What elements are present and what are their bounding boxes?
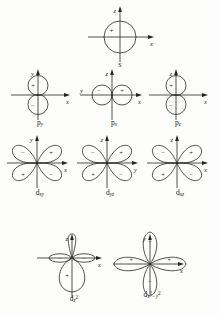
orbital-d-xy: − + + − y x dxy	[4, 130, 76, 192]
svg-text:y: y	[29, 136, 33, 143]
orbital-label-p-y: py	[29, 118, 51, 127]
orbital-label-sup: 2	[76, 294, 79, 300]
svg-text:−: −	[148, 278, 152, 285]
svg-text:+: +	[91, 171, 95, 178]
svg-text:+: +	[120, 87, 124, 94]
svg-text:x: x	[203, 98, 207, 105]
svg-text:+: +	[161, 171, 165, 178]
svg-text:+: +	[21, 171, 25, 178]
orbital-d-x2-y2: + + − − y x dx2−y2	[110, 232, 194, 302]
svg-text:−: −	[58, 255, 61, 261]
svg-text:+: +	[167, 256, 171, 263]
svg-text:+: +	[31, 82, 35, 89]
svg-text:−: −	[82, 255, 85, 261]
svg-text:+: +	[49, 149, 53, 156]
svg-text:z: z	[99, 136, 103, 143]
orbital-d-z2: − − + z x dz2	[34, 232, 110, 302]
svg-text:−: −	[21, 149, 25, 156]
svg-text:y: y	[79, 87, 83, 94]
svg-text:z: z	[112, 7, 116, 14]
svg-text:−: −	[31, 102, 35, 109]
orbital-d-xz: − + + − z x dxz	[144, 130, 216, 192]
orbital-s: + z x s	[82, 4, 158, 66]
svg-text:−: −	[148, 238, 152, 245]
svg-text:−: −	[189, 171, 193, 178]
svg-text:+: +	[65, 272, 69, 279]
orbital-p-x: − + z x y px	[76, 66, 148, 124]
orbital-label-d-yz: dyz	[97, 188, 123, 197]
svg-text:+: +	[169, 82, 173, 89]
svg-text:x: x	[97, 261, 101, 268]
svg-text:−: −	[119, 171, 123, 178]
orbital-figure: + z x s + − y x py	[0, 0, 219, 315]
svg-text:+: +	[119, 149, 123, 156]
svg-text:y: y	[142, 235, 146, 242]
svg-text:x: x	[65, 98, 69, 105]
svg-text:z: z	[64, 235, 68, 242]
orbital-label-sub: x	[115, 121, 117, 127]
orbital-label-d-x2-y2: dx2−y2	[128, 290, 176, 299]
svg-text:+: +	[129, 256, 133, 263]
orbital-label-sub: xy	[40, 191, 45, 197]
svg-text:+: +	[189, 149, 193, 156]
orbital-label-sub: xz	[180, 191, 184, 197]
svg-text:x: x	[203, 166, 207, 173]
orbital-label-d-z2: dz2	[60, 294, 88, 303]
svg-text:−: −	[97, 87, 101, 94]
orbital-label-sub: z	[179, 121, 181, 127]
svg-text:z: z	[168, 70, 172, 77]
svg-text:x: x	[63, 166, 67, 173]
svg-text:x: x	[179, 267, 183, 274]
svg-text:x: x	[137, 98, 141, 105]
svg-text:z: z	[104, 70, 108, 77]
orbital-p-y: + − y x py	[8, 66, 78, 124]
orbital-label-sub: yz	[110, 191, 114, 197]
svg-text:−: −	[169, 102, 173, 109]
svg-text:+: +	[110, 27, 114, 35]
orbital-d-yz: − + + − z y dyz	[74, 130, 146, 192]
svg-text:y: y	[30, 70, 34, 77]
orbital-label-p-z: pz	[167, 118, 189, 127]
svg-text:−: −	[161, 149, 165, 156]
svg-text:x: x	[149, 40, 153, 47]
orbital-label-d-xz: dxz	[167, 188, 193, 197]
orbital-p-z: + − z x pz	[146, 66, 216, 124]
orbital-label-sup2: 2	[158, 290, 161, 296]
svg-text:y: y	[133, 166, 137, 173]
orbital-label-d-xy: dxy	[27, 188, 53, 197]
svg-text:z: z	[169, 136, 173, 143]
svg-text:−: −	[49, 171, 53, 178]
svg-text:−: −	[91, 149, 95, 156]
orbital-label-sub: y	[41, 121, 43, 127]
orbital-label-p-x: px	[103, 118, 125, 127]
